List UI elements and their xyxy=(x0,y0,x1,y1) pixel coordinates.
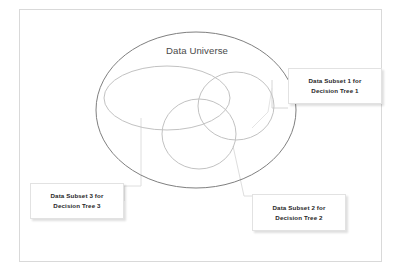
diagram-canvas: Data Universe Data Subset 1 for Decision… xyxy=(0,0,399,275)
callout-subset-3-line1: Data Subset 3 for xyxy=(51,191,104,201)
leader-line-subset-3 xyxy=(124,118,141,201)
callout-subset-2-line2: Decision Tree 2 xyxy=(275,213,322,223)
diagram-drawing xyxy=(0,0,399,275)
callout-subset-2-line1: Data Subset 2 for xyxy=(273,203,326,213)
callout-subset-2[interactable]: Data Subset 2 for Decision Tree 2 xyxy=(252,194,346,231)
callout-subset-1[interactable]: Data Subset 1 for Decision Tree 1 xyxy=(288,68,382,104)
leader-line-subset-2 xyxy=(233,146,252,196)
data-universe-title: Data Universe xyxy=(147,45,247,56)
subset-1-ellipse xyxy=(104,66,230,130)
subset-3-circle xyxy=(162,99,236,169)
callout-subset-1-line1: Data Subset 1 for xyxy=(309,76,362,86)
callout-subset-1-line2: Decision Tree 1 xyxy=(311,86,358,96)
callout-subset-3-line2: Decision Tree 3 xyxy=(53,201,100,211)
leader-tail-subset-1 xyxy=(252,88,272,128)
callout-subset-3[interactable]: Data Subset 3 for Decision Tree 3 xyxy=(30,183,124,219)
